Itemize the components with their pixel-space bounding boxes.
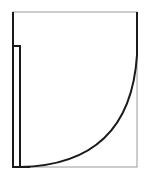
door-leaf xyxy=(13,46,20,167)
frame-outline xyxy=(13,12,137,167)
door-swing-arc xyxy=(20,55,137,167)
door-swing-diagram xyxy=(0,0,147,180)
